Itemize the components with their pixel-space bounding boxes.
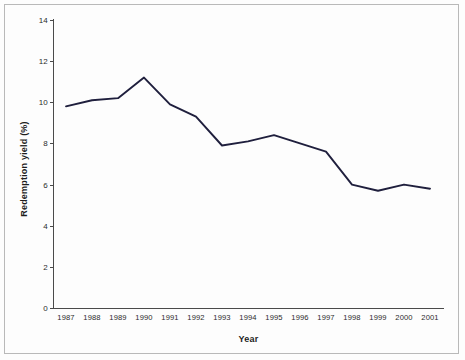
y-tick-mark [50,185,53,186]
y-tick-mark [50,102,53,103]
chart-figure: 02468101214 1987198819891990199119921993… [0,0,465,360]
series-plot [0,0,465,360]
y-tick-mark [50,226,53,227]
y-tick-mark [50,20,53,21]
y-tick-mark [50,143,53,144]
y-tick-mark [50,267,53,268]
redemption-yield-line [66,78,430,191]
y-tick-mark [50,308,53,309]
y-tick-mark [50,61,53,62]
